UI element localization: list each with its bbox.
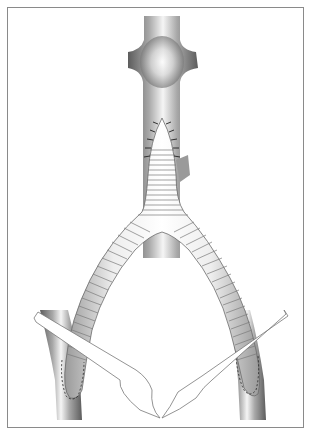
aortobifemoral-graft-illustration	[0, 0, 314, 438]
inguinal-ligament-right	[162, 310, 288, 418]
